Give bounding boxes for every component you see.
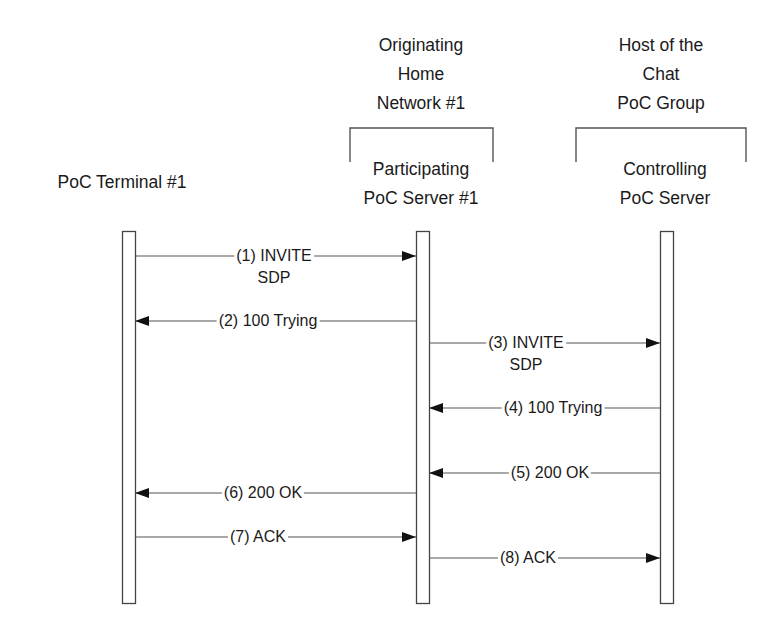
message-label-1-invite: (1) INVITE SDP [234, 245, 314, 289]
message-label-line: (1) INVITE [236, 245, 312, 267]
message-label-line: (2) 100 Trying [219, 310, 318, 332]
message-label-5-200-ok: (5) 200 OK [509, 462, 591, 484]
group-label-line: Host of the [617, 31, 705, 60]
group-label-line: Network #1 [377, 89, 466, 118]
participant-label-line: Controlling [620, 155, 710, 184]
message-label-3-invite: (3) INVITE SDP [486, 332, 566, 376]
group-label-originating-home-network: Originating Home Network #1 [377, 31, 466, 118]
group-label-line: Chat [617, 60, 705, 89]
participant-label-line: PoC Server [620, 184, 710, 213]
lifeline-controlling [661, 232, 674, 604]
group-label-line: Originating [377, 31, 466, 60]
message-label-line: (6) 200 OK [224, 482, 302, 504]
lifeline-participating [417, 232, 430, 604]
message-label-7-ack: (7) ACK [228, 526, 288, 548]
message-label-4-100-trying: (4) 100 Trying [502, 397, 605, 419]
message-label-line: (8) ACK [500, 547, 556, 569]
participant-label-line: PoC Terminal #1 [57, 168, 186, 197]
message-label-line: SDP [236, 267, 312, 289]
message-label-2-100-trying: (2) 100 Trying [217, 310, 320, 332]
group-label-line: PoC Group [617, 89, 705, 118]
message-label-line: (5) 200 OK [511, 462, 589, 484]
participant-label-poc-terminal: PoC Terminal #1 [57, 168, 186, 197]
message-label-line: (7) ACK [230, 526, 286, 548]
group-label-host-of-chat-group: Host of the Chat PoC Group [617, 31, 705, 118]
message-label-line: (4) 100 Trying [504, 397, 603, 419]
group-label-line: Home [377, 60, 466, 89]
message-label-6-200-ok: (6) 200 OK [222, 482, 304, 504]
sequence-diagram: Originating Home Network #1 Host of the … [0, 0, 784, 636]
participant-label-line: Participating [364, 155, 479, 184]
participant-label-line: PoC Server #1 [364, 184, 479, 213]
message-label-line: (3) INVITE [488, 332, 564, 354]
message-label-line: SDP [488, 354, 564, 376]
participant-label-participating-poc-server: Participating PoC Server #1 [364, 155, 479, 213]
lifeline-terminal [123, 232, 136, 604]
participant-label-controlling-poc-server: Controlling PoC Server [620, 155, 710, 213]
message-label-8-ack: (8) ACK [498, 547, 558, 569]
